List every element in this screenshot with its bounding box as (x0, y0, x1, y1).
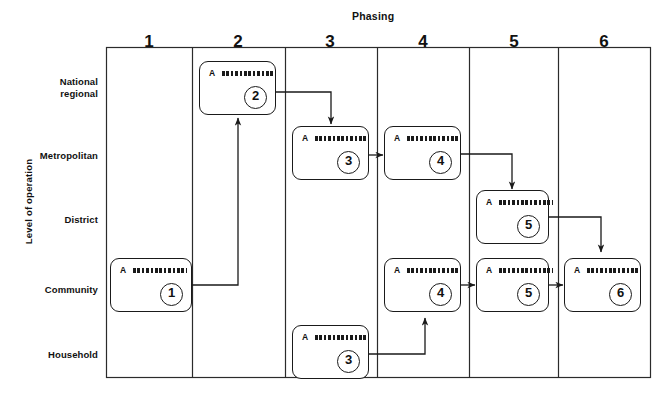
node-badge: 4 (429, 151, 452, 174)
node-badge: 1 (160, 283, 183, 306)
node-community-phase1[interactable]: A 1 (110, 258, 192, 312)
node-badge: 6 (609, 283, 632, 306)
node-placeholder-dots (315, 136, 369, 141)
node-code: A (302, 333, 308, 342)
node-badge: 5 (517, 215, 540, 238)
node-code: A (394, 134, 400, 143)
node-placeholder-dots (587, 268, 641, 273)
node-code: A (394, 266, 400, 275)
node-badge: 4 (429, 283, 452, 306)
connector-n1-n2 (192, 118, 238, 285)
node-code: A (302, 134, 308, 143)
node-badge: 3 (337, 151, 360, 174)
node-metropolitan-phase4[interactable]: A 4 (384, 126, 461, 180)
node-badge: 5 (517, 283, 540, 306)
node-code: A (486, 198, 492, 207)
node-national-regional-phase2[interactable]: A 2 (199, 61, 276, 115)
node-badge: 2 (244, 86, 267, 109)
connector-n5-n7 (461, 154, 512, 189)
node-placeholder-dots (407, 136, 461, 141)
node-placeholder-dots (499, 200, 553, 205)
node-placeholder-dots (133, 268, 187, 273)
node-code: A (209, 69, 215, 78)
node-placeholder-dots (407, 268, 461, 273)
node-placeholder-dots (315, 335, 369, 340)
grid-frame (107, 48, 651, 378)
node-placeholder-dots (499, 268, 553, 273)
node-code: A (574, 266, 580, 275)
node-code: A (486, 266, 492, 275)
node-metropolitan-phase3[interactable]: A 3 (292, 126, 369, 180)
node-community-phase6[interactable]: A 6 (564, 258, 641, 312)
diagram-canvas: Phasing 1 2 3 4 5 6 Level of operation N… (0, 0, 664, 395)
node-community-phase4[interactable]: A 4 (384, 258, 461, 312)
node-district-phase5[interactable]: A 5 (476, 190, 549, 244)
node-household-phase3[interactable]: A 3 (292, 325, 369, 379)
node-placeholder-dots (222, 71, 276, 76)
node-community-phase5[interactable]: A 5 (476, 258, 549, 312)
node-code: A (120, 266, 126, 275)
connector-n7-n9 (549, 217, 601, 252)
connector-n2-n3 (276, 92, 331, 124)
node-badge: 3 (337, 350, 360, 373)
